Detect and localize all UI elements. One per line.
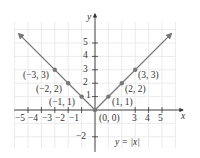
tick-x--1: −1	[69, 114, 79, 124]
point-label-3: (3, 3)	[138, 71, 159, 81]
tick-x--3: −3	[42, 114, 52, 124]
point-label-neg1: (−1, 1)	[49, 98, 75, 108]
data-point	[133, 68, 137, 72]
tick-x-4: 4	[145, 114, 150, 124]
axis-label-x: x	[181, 112, 185, 122]
point-label-1: (1, 1)	[112, 98, 133, 108]
data-point	[120, 81, 124, 85]
point-label-neg2: (−2, 2)	[36, 85, 62, 95]
line-right-branch	[95, 34, 171, 110]
tick-y-4: 4	[83, 51, 88, 61]
tick-x--5: −5	[15, 114, 25, 124]
equation-label: y = |x|	[115, 138, 140, 148]
tick-y--2: −2	[76, 132, 86, 142]
tick-x-3: 3	[132, 114, 137, 124]
tick-x--4: −4	[28, 114, 38, 124]
data-point	[93, 108, 97, 112]
tick-y-2: 2	[83, 78, 88, 88]
tick-y-5: 5	[83, 38, 88, 48]
point-label-2: (2, 2)	[125, 85, 146, 95]
point-label-origin: (0, 0)	[99, 114, 120, 124]
data-point	[53, 68, 57, 72]
tick-x--2: −2	[55, 114, 65, 124]
tick-y-3: 3	[83, 65, 88, 75]
equation-text: y = |x|	[115, 137, 140, 147]
tick-x-5: 5	[158, 114, 163, 124]
data-point	[66, 81, 70, 85]
data-point	[79, 94, 83, 98]
tick-y-1: 1	[86, 91, 91, 101]
point-label-neg3: (−3, 3)	[23, 71, 49, 81]
data-point	[106, 94, 110, 98]
axis-label-y: y	[87, 13, 91, 23]
